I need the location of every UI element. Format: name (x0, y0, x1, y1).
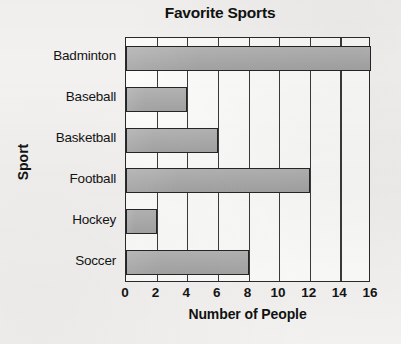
bar-hockey (126, 209, 157, 234)
bar-badminton (126, 46, 371, 71)
x-tick-label-2: 2 (152, 285, 160, 300)
x-tick-label-10: 10 (271, 285, 286, 300)
category-axis-labels: BadmintonBaseballBasketballFootballHocke… (0, 37, 120, 282)
chart-title: Favorite Sports (110, 4, 330, 22)
x-tick-label-16: 16 (362, 285, 377, 300)
bar-chart: Favorite Sports Sport BadmintonBaseballB… (0, 0, 401, 344)
bar-basketball (126, 128, 218, 153)
category-label-basketball: Basketball (0, 130, 116, 145)
x-axis-tick-labels: 0246810121416 (125, 285, 370, 305)
category-label-hockey: Hockey (0, 212, 116, 227)
bars-layer (126, 38, 369, 281)
x-tick-label-6: 6 (213, 285, 221, 300)
bar-soccer (126, 250, 249, 275)
bar-baseball (126, 87, 187, 112)
x-tick-label-14: 14 (332, 285, 347, 300)
bar-football (126, 168, 310, 193)
x-tick-label-12: 12 (301, 285, 316, 300)
x-tick-label-0: 0 (121, 285, 129, 300)
x-tick-label-4: 4 (182, 285, 190, 300)
category-label-soccer: Soccer (0, 253, 116, 268)
x-tick-label-8: 8 (244, 285, 252, 300)
category-label-badminton: Badminton (0, 48, 116, 63)
category-label-baseball: Baseball (0, 89, 116, 104)
plot-area (125, 37, 370, 282)
x-axis-title: Number of People (125, 306, 370, 322)
category-label-football: Football (0, 171, 116, 186)
